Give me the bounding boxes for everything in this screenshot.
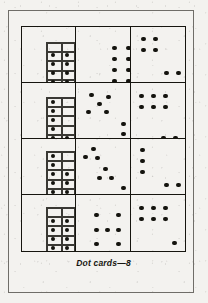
dot: [112, 68, 117, 73]
dot: [151, 217, 156, 222]
page-background: Dot cards—8: [0, 0, 208, 303]
ten-frame-cell: [47, 43, 62, 52]
dot-card: [22, 139, 76, 195]
dot-card: [131, 83, 185, 139]
ten-frame-cell: [62, 98, 77, 107]
dot: [116, 213, 121, 218]
dot: [116, 242, 121, 247]
ten-frame-cell: [47, 208, 62, 217]
dot: [164, 71, 169, 76]
dot: [163, 94, 168, 99]
ten-frame-cell: [62, 170, 77, 179]
ten-frame-cell: [62, 236, 77, 245]
dot-card: [76, 139, 130, 195]
ten-frame-cell: [62, 107, 77, 116]
dot: [112, 57, 117, 62]
dot: [151, 105, 156, 110]
dot: [153, 48, 158, 53]
dot: [91, 147, 96, 152]
dot: [151, 94, 156, 99]
dot: [139, 94, 144, 99]
dot: [103, 167, 108, 172]
dot-card-grid: [21, 26, 186, 252]
dot: [176, 183, 181, 188]
dot-card: [76, 195, 130, 251]
dot: [97, 102, 102, 107]
dot: [109, 176, 114, 181]
ten-frame-cell: [62, 180, 77, 189]
ten-frame-cell: [62, 126, 77, 135]
dot: [121, 132, 126, 137]
dot: [139, 206, 144, 211]
dot-card: [22, 83, 76, 139]
dot: [95, 156, 100, 161]
dot-card: [131, 139, 185, 195]
figure-caption: Dot cards—8: [21, 258, 186, 268]
dot: [105, 228, 110, 233]
dot-card: [22, 27, 76, 83]
dot: [94, 228, 99, 233]
dot: [163, 217, 168, 222]
dot: [121, 186, 126, 191]
dot: [139, 217, 144, 222]
ten-frame-cell: [62, 226, 77, 235]
dot: [89, 93, 94, 98]
dot: [139, 105, 144, 110]
dot-card: [76, 83, 130, 139]
dot: [106, 95, 111, 100]
dot: [140, 159, 145, 164]
dot: [94, 242, 99, 247]
ten-frame-cell: [62, 152, 77, 161]
dot: [121, 122, 126, 127]
ten-frame-cell: [62, 208, 77, 217]
dot: [141, 37, 146, 42]
dot-card: [131, 195, 185, 251]
dot: [176, 71, 181, 76]
dot: [163, 206, 168, 211]
dot: [141, 48, 146, 53]
dot: [97, 176, 102, 181]
dot: [153, 37, 158, 42]
dot: [86, 110, 91, 115]
dot: [112, 46, 117, 51]
dot-card: [22, 195, 76, 251]
dot: [94, 213, 99, 218]
ten-frame-cell: [62, 43, 77, 52]
dot: [116, 228, 121, 233]
dot: [104, 110, 109, 115]
dot: [164, 183, 169, 188]
dot: [151, 206, 156, 211]
dot-card: [131, 27, 185, 83]
dot: [163, 105, 168, 110]
dot-card: [76, 27, 130, 83]
dot: [83, 155, 88, 160]
dot: [140, 148, 145, 153]
ten-frame-cell: [62, 116, 77, 125]
dot: [172, 241, 177, 246]
ten-frame-cell: [62, 161, 77, 170]
dot: [140, 170, 145, 175]
